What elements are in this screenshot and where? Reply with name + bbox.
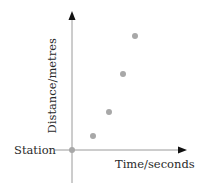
data-point	[106, 109, 112, 115]
y-axis-label: Distance/metres	[46, 38, 58, 133]
x-axis-arrowhead-icon	[178, 147, 187, 154]
data-point	[132, 33, 138, 39]
origin-label: Station	[14, 145, 56, 157]
y-axis-arrowhead-icon	[69, 11, 76, 20]
data-point	[69, 147, 75, 153]
x-axis-label: Time/seconds	[115, 159, 195, 171]
data-point	[90, 133, 96, 139]
data-points	[69, 33, 138, 153]
data-point	[120, 71, 126, 77]
